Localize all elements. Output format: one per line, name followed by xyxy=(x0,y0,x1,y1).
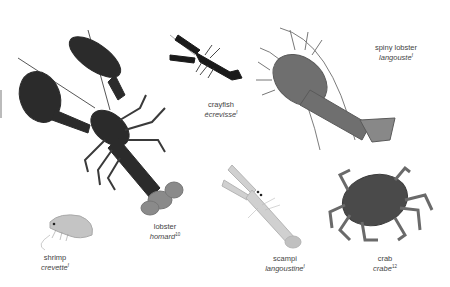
french-name: crevettef xyxy=(25,263,85,273)
french-name-text: langouste xyxy=(379,53,412,62)
french-name: langoustef xyxy=(356,53,436,63)
reference-number: f xyxy=(412,52,413,57)
reference-number: 12 xyxy=(392,263,397,268)
crab-drawing xyxy=(330,167,432,240)
french-name: écrevissef xyxy=(186,110,256,120)
english-name: crab xyxy=(350,254,420,264)
label-spiny-lobster: spiny lobster langoustef xyxy=(356,43,436,62)
reference-number: 10 xyxy=(175,231,180,236)
label-crayfish: crayfish écrevissef xyxy=(186,100,256,119)
label-scampi: scampi langoustinef xyxy=(250,254,320,273)
lobster-drawing xyxy=(12,29,183,215)
reference-number: f xyxy=(236,109,237,114)
label-shrimp: shrimp crevettef xyxy=(25,253,85,272)
english-name: spiny lobster xyxy=(356,43,436,53)
english-name: shrimp xyxy=(25,253,85,263)
french-name-text: homard xyxy=(150,232,175,241)
french-name-text: écrevisse xyxy=(205,110,237,119)
english-name: lobster xyxy=(135,222,195,232)
french-name-text: crabe xyxy=(373,264,392,273)
english-name: scampi xyxy=(250,254,320,264)
label-crab: crab crabe12 xyxy=(350,254,420,273)
french-name: langoustinef xyxy=(250,264,320,274)
crayfish-drawing xyxy=(170,35,242,80)
reference-number: f xyxy=(304,263,305,268)
french-name-text: langoustine xyxy=(265,264,303,273)
label-lobster: lobster homard10 xyxy=(135,222,195,241)
french-name: crabe12 xyxy=(350,264,420,274)
crustacean-illustration: crayfish écrevissef spiny lobster langou… xyxy=(0,0,450,287)
english-name: crayfish xyxy=(186,100,256,110)
reference-number: f xyxy=(68,262,69,267)
scampi-drawing xyxy=(222,165,301,248)
french-name-text: crevette xyxy=(41,263,68,272)
french-name: homard10 xyxy=(135,232,195,242)
shrimp-drawing xyxy=(41,215,93,250)
